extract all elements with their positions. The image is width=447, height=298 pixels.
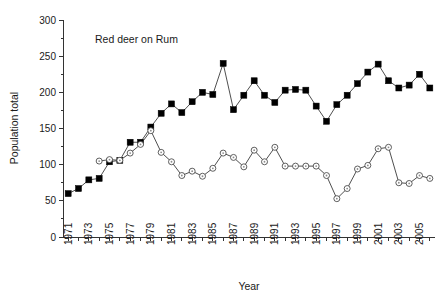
- data-point-center-dot: [129, 152, 131, 154]
- data-point-center-dot: [191, 170, 193, 172]
- data-point-center-dot: [284, 165, 286, 167]
- data-point-marker: [355, 81, 361, 87]
- data-point-marker: [396, 85, 402, 91]
- data-point-marker: [220, 60, 226, 66]
- data-point-marker: [189, 99, 195, 105]
- data-point-center-dot: [202, 175, 204, 177]
- data-point-center-dot: [171, 161, 173, 163]
- data-point-center-dot: [346, 188, 348, 190]
- x-tick-label: 1979: [145, 222, 156, 245]
- series-polyline: [68, 63, 430, 193]
- data-point-marker: [96, 175, 102, 181]
- data-point-marker: [251, 78, 257, 84]
- data-point-center-dot: [119, 159, 121, 161]
- data-point-marker: [210, 92, 216, 98]
- y-tick-label: 0: [50, 232, 56, 243]
- data-point-marker: [282, 87, 288, 93]
- data-point-center-dot: [295, 165, 297, 167]
- data-point-marker: [406, 82, 412, 88]
- x-axis: 1971197319751977197919811983198519871989…: [63, 222, 435, 245]
- y-tick-label: 50: [45, 195, 57, 206]
- data-point-marker: [169, 101, 175, 107]
- data-point-marker: [375, 61, 381, 67]
- x-tick-label: 2005: [414, 222, 425, 245]
- data-point-center-dot: [243, 166, 245, 168]
- data-point-marker: [272, 99, 278, 105]
- data-point-center-dot: [181, 175, 183, 177]
- population-line-chart: 050100150200250300 197119731975197719791…: [0, 0, 447, 298]
- data-point-center-dot: [212, 167, 214, 169]
- x-tick-label: 1993: [290, 222, 301, 245]
- data-point-marker: [127, 139, 133, 145]
- data-point-marker: [179, 110, 185, 116]
- data-point-marker: [417, 71, 423, 77]
- data-point-center-dot: [336, 198, 338, 200]
- data-point-marker: [262, 92, 268, 98]
- data-point-center-dot: [233, 157, 235, 159]
- data-point-center-dot: [326, 175, 328, 177]
- data-point-marker: [303, 87, 309, 93]
- data-point-marker: [365, 69, 371, 75]
- y-tick-label: 250: [39, 51, 56, 62]
- x-tick-label: 1989: [249, 222, 260, 245]
- data-point-center-dot: [305, 165, 307, 167]
- x-tick-label: 1985: [207, 222, 218, 245]
- data-point-center-dot: [408, 183, 410, 185]
- x-tick-label: 1995: [311, 222, 322, 245]
- data-point-center-dot: [315, 165, 317, 167]
- data-point-marker: [386, 78, 392, 84]
- y-tick-label: 150: [39, 123, 56, 134]
- x-tick-label: 1987: [228, 222, 239, 245]
- data-point-center-dot: [264, 161, 266, 163]
- x-tick-label: 1981: [166, 222, 177, 245]
- x-tick-label: 1975: [104, 222, 115, 245]
- chart-title: Red deer on Rum: [95, 33, 178, 45]
- data-point-marker: [334, 102, 340, 108]
- data-point-marker: [427, 85, 433, 91]
- data-point-marker: [86, 177, 92, 183]
- data-point-center-dot: [274, 146, 276, 148]
- x-axis-title: Year: [238, 280, 260, 292]
- data-point-marker: [76, 186, 82, 192]
- y-axis-title: Population total: [8, 92, 20, 164]
- data-point-marker: [324, 118, 330, 124]
- x-tick-label: 1973: [83, 222, 94, 245]
- data-point-center-dot: [388, 146, 390, 148]
- x-tick-label: 1991: [269, 222, 280, 245]
- data-point-center-dot: [419, 175, 421, 177]
- data-point-center-dot: [160, 151, 162, 153]
- data-point-marker: [313, 103, 319, 109]
- x-tick-label: 2001: [373, 222, 384, 245]
- series-1-filled-square: [65, 60, 433, 196]
- data-series-group: [65, 60, 433, 201]
- y-tick-label: 300: [39, 15, 56, 26]
- data-point-center-dot: [109, 159, 111, 161]
- data-point-center-dot: [398, 182, 400, 184]
- x-tick-label: 1997: [331, 222, 342, 245]
- data-point-center-dot: [253, 149, 255, 151]
- data-point-marker: [344, 92, 350, 98]
- data-point-marker: [65, 191, 71, 197]
- x-tick-label: 2003: [393, 222, 404, 245]
- data-point-marker: [293, 86, 299, 92]
- data-point-center-dot: [140, 144, 142, 146]
- chart-figure: 050100150200250300 197119731975197719791…: [0, 0, 447, 298]
- data-point-center-dot: [429, 178, 431, 180]
- data-point-center-dot: [222, 152, 224, 154]
- x-tick-label: 1999: [352, 222, 363, 245]
- data-point-center-dot: [367, 164, 369, 166]
- y-tick-label: 100: [39, 159, 56, 170]
- x-tick-label: 1977: [125, 222, 136, 245]
- x-tick-label: 1971: [63, 222, 74, 245]
- data-point-center-dot: [377, 148, 379, 150]
- y-tick-label: 200: [39, 87, 56, 98]
- series-2-open-circle: [96, 128, 433, 202]
- data-point-marker: [241, 92, 247, 98]
- x-tick-label: 1983: [187, 222, 198, 245]
- data-point-center-dot: [98, 160, 100, 162]
- data-point-marker: [200, 89, 206, 95]
- data-point-center-dot: [150, 130, 152, 132]
- y-axis: 050100150200250300: [39, 15, 63, 243]
- data-point-marker: [231, 107, 237, 113]
- data-point-marker: [158, 110, 164, 116]
